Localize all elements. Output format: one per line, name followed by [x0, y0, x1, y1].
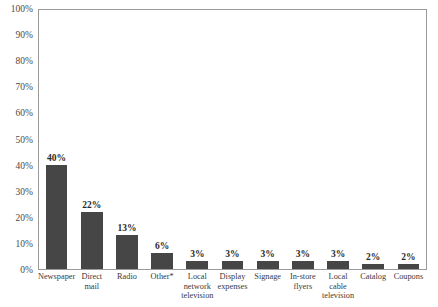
category-label-line: mail	[69, 282, 115, 292]
bar-group[interactable]: 13%	[116, 10, 138, 269]
bar[interactable]	[327, 261, 349, 269]
y-tick-label: 50%	[0, 135, 33, 145]
bar-group[interactable]: 3%	[222, 10, 244, 269]
bar[interactable]	[292, 261, 314, 269]
category-label-line: television	[174, 291, 220, 301]
bar[interactable]	[116, 235, 138, 269]
y-tick-label: 40%	[0, 161, 33, 171]
bar[interactable]	[257, 261, 279, 269]
y-tick-label: 100%	[0, 4, 33, 14]
bar-group[interactable]: 2%	[362, 10, 384, 269]
bar-group[interactable]: 40%	[46, 10, 68, 269]
bar-value-label: 2%	[388, 252, 430, 262]
y-tick-label: 80%	[0, 56, 33, 66]
bar-group[interactable]: 3%	[257, 10, 279, 269]
bar[interactable]	[398, 264, 420, 269]
bar[interactable]	[151, 253, 173, 269]
chart-title	[0, 0, 438, 4]
bar-group[interactable]: 22%	[81, 10, 103, 269]
bar-group[interactable]: 3%	[186, 10, 208, 269]
category-label-line: expenses	[209, 282, 255, 292]
y-tick-label: 60%	[0, 108, 33, 118]
bar[interactable]	[186, 261, 208, 269]
category-label: Coupons	[385, 272, 431, 282]
y-tick-label: 70%	[0, 82, 33, 92]
bar-chart: 100%90%80%70%60%50%40%30%20%10%0% 40%22%…	[0, 0, 438, 307]
bar-value-label: 40%	[36, 153, 78, 163]
bar-group[interactable]: 6%	[151, 10, 173, 269]
y-tick-label: 0%	[0, 265, 33, 275]
y-tick-label: 30%	[0, 187, 33, 197]
category-label-line: Coupons	[385, 272, 431, 282]
y-tick-label: 10%	[0, 239, 33, 249]
bar-value-label: 22%	[71, 200, 113, 210]
bar-value-label: 13%	[106, 223, 148, 233]
y-tick-label: 20%	[0, 213, 33, 223]
bar[interactable]	[81, 212, 103, 269]
category-labels: NewspaperDirectmailRadioOther*Localnetwo…	[39, 272, 426, 307]
category-label-line: television	[315, 291, 361, 301]
bar[interactable]	[46, 165, 68, 269]
bars-layer: 40%22%13%6%3%3%3%3%3%2%2%	[39, 10, 426, 269]
y-axis: 100%90%80%70%60%50%40%30%20%10%0%	[0, 9, 38, 270]
y-tick-label: 90%	[0, 30, 33, 40]
bar[interactable]	[222, 261, 244, 269]
category-label-line: cable	[315, 282, 361, 292]
bar-group[interactable]: 3%	[292, 10, 314, 269]
bar[interactable]	[362, 264, 384, 269]
bar-group[interactable]: 2%	[398, 10, 420, 269]
bar-group[interactable]: 3%	[327, 10, 349, 269]
